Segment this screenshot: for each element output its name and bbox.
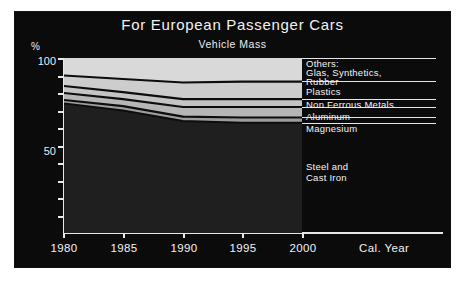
chart-subtitle: Vehicle Mass: [14, 38, 451, 50]
chart-title: For European Passenger Cars: [14, 16, 451, 33]
series-label-plastics: Plastics: [306, 87, 341, 98]
series-label-aluminum: Aluminum: [306, 112, 350, 123]
series-label-steel-line2: Cast Iron: [306, 172, 347, 183]
chart-panel: For European Passenger Cars Vehicle Mass…: [14, 11, 451, 268]
series-label-magnesium: Magnesium: [306, 124, 357, 135]
x-tick-label-1995: 1995: [229, 242, 256, 254]
area-chart-svg: [64, 58, 302, 233]
series-label-non-ferrous-metals: Non Ferrous Metals: [306, 100, 394, 111]
x-tick-label-1980: 1980: [50, 242, 77, 254]
y-tick-label-50: 50: [22, 145, 56, 157]
x-tick-2000: [302, 232, 304, 238]
x-tick-label-1985: 1985: [110, 242, 137, 254]
x-tick-label-2000: 2000: [289, 242, 316, 254]
y-tick-label-100: 100: [22, 55, 56, 67]
stacked-area-plot: [64, 58, 302, 233]
chart-screenshot: For European Passenger Cars Vehicle Mass…: [0, 0, 461, 282]
x-tick-label-1990: 1990: [170, 242, 197, 254]
series-label-steel-line1: Steel and: [306, 161, 348, 172]
y-axis-unit: %: [31, 41, 40, 52]
x-axis-caption: Cal. Year: [359, 242, 409, 254]
